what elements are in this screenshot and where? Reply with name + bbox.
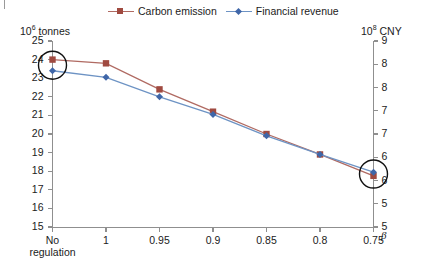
chart-figure: Carbon emission Financial revenue 106 to… — [0, 0, 423, 268]
data-point-marker — [156, 93, 163, 100]
chart-series-layer — [0, 0, 423, 268]
data-point-marker — [49, 56, 55, 62]
data-point-marker — [49, 67, 56, 74]
data-point-marker — [156, 86, 162, 92]
data-point-marker — [103, 74, 110, 81]
annotation-circle — [39, 51, 67, 79]
data-point-marker — [103, 60, 109, 66]
